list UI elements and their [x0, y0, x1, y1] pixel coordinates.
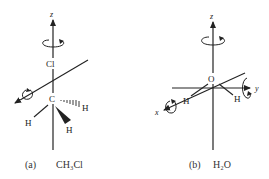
y-axis-label-b: y: [254, 84, 259, 93]
caption-formula-b: H₂O: [213, 159, 231, 170]
atom-h-right-b: H: [234, 94, 241, 104]
z-axis-label-b: z: [209, 12, 214, 21]
atom-o: O: [208, 74, 215, 84]
atom-h-left-b: H: [183, 96, 190, 106]
panel-b-h2o: z y x O H H (b) H₂O: [154, 12, 259, 171]
atom-h-right-a: H: [82, 103, 89, 113]
panel-a-ch3cl: z Cl C H H: [15, 10, 89, 171]
caption-tag-b: (b): [189, 159, 201, 171]
x-axis-label-b: x: [154, 108, 159, 117]
atom-h-front-a: H: [66, 125, 73, 135]
hashed-bond-a: [61, 100, 79, 107]
caption-tag-a: (a): [25, 159, 36, 171]
bond-h-left-a: [34, 105, 48, 117]
wedge-bond-a: [55, 106, 71, 124]
bond-oh-right: [219, 84, 233, 95]
atom-h-left-a: H: [25, 118, 32, 128]
atom-cl: Cl: [46, 59, 55, 69]
rotation-arrow-x-b: [166, 99, 176, 113]
symmetry-diagram: z Cl C H H: [0, 0, 269, 179]
z-axis-label-a: z: [49, 10, 54, 19]
caption-formula-a: CH₃Cl: [56, 159, 83, 170]
atom-c: C: [49, 94, 55, 104]
